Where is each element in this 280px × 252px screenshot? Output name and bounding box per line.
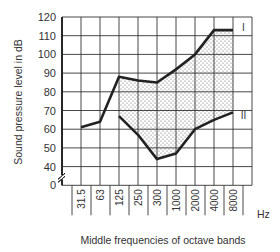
y-tick-label: 50 — [44, 142, 56, 154]
y-tick-label: 60 — [44, 123, 56, 135]
y-tick-label: 40 — [44, 161, 56, 173]
y-tick-label: 80 — [44, 86, 56, 98]
y-tick-label: 0 — [50, 179, 56, 191]
x-tick-label: 250 — [133, 189, 144, 206]
x-tick-label: 63 — [95, 189, 106, 201]
y-tick-label: 90 — [44, 67, 56, 79]
series-label-I: I — [242, 22, 245, 33]
x-tick-label: 125 — [114, 189, 125, 206]
y-tick-label: 120 — [38, 11, 56, 23]
y-axis-label: Sound pressure level in dB — [12, 39, 24, 165]
x-tick-label: 1000 — [171, 189, 182, 212]
x-tick-label: 8000 — [228, 189, 239, 212]
series-labels: III — [241, 22, 247, 121]
y-tick-label: 70 — [44, 105, 56, 117]
x-tick-label: 31.5 — [76, 189, 87, 209]
x-tick-label: 4000 — [209, 189, 220, 212]
x-tick-label: 2000 — [190, 189, 201, 212]
x-tick-labels: 31.5631252503001000200040008000 — [76, 189, 239, 212]
y-tick-label: 110 — [38, 30, 56, 42]
y-tick-label: 100 — [38, 48, 56, 60]
x-axis-label: Middle frequencies of octave bands — [80, 234, 245, 246]
chart: 0405060708090100110120 31.56312525030010… — [0, 0, 280, 252]
y-tick-labels: 0405060708090100110120 — [38, 11, 56, 191]
x-tick-label: 300 — [152, 189, 163, 206]
x-unit-label: Hz — [257, 208, 270, 220]
series-label-II: II — [241, 110, 247, 121]
